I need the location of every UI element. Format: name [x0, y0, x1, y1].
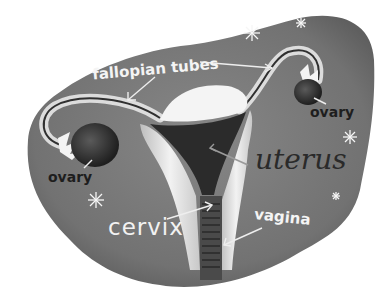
- reproductive-system-diagram: fallopian tubes ovary ovary uterus cervi…: [0, 0, 390, 299]
- ovary-right-shape: [294, 79, 322, 105]
- label-uterus: uterus: [255, 146, 347, 174]
- sparkle-icon: [244, 25, 260, 41]
- label-ovary-right: ovary: [310, 105, 354, 119]
- label-ovary-left: ovary: [48, 170, 92, 184]
- sparkle-icon: [343, 130, 357, 144]
- ovary-left-shape: [71, 123, 119, 167]
- sparkle-icon: [332, 192, 340, 200]
- sparkle-icon: [88, 192, 104, 208]
- label-cervix: cervix: [108, 216, 184, 239]
- sparkle-icon: [296, 18, 306, 28]
